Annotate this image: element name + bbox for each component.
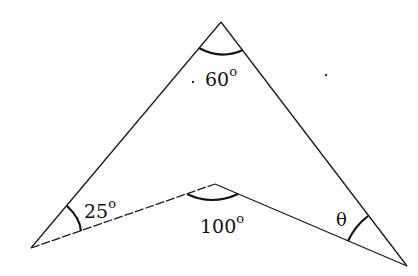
edge-top-right <box>221 22 407 266</box>
speck <box>192 81 194 83</box>
edge-top-left <box>31 22 221 248</box>
arc-top <box>199 48 243 55</box>
arc-inner <box>187 194 238 200</box>
angle-label-left: 25o <box>84 200 116 221</box>
arc-right <box>348 216 368 241</box>
arc-left <box>67 206 81 231</box>
angle-label-theta: θ <box>336 211 347 229</box>
angle-label-inner: 100o <box>200 215 244 236</box>
angle-label-top: 60o <box>205 68 237 89</box>
speck <box>325 74 327 76</box>
geometry-diagram: 60o 25o 100o θ <box>0 0 418 276</box>
